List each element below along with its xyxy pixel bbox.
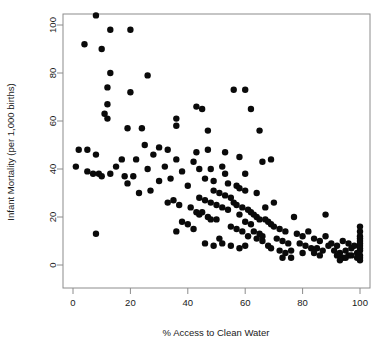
data-point xyxy=(282,228,288,234)
data-point xyxy=(274,235,280,241)
data-point xyxy=(99,173,105,179)
data-point xyxy=(185,183,191,189)
y-tick-label: 20 xyxy=(47,212,58,223)
data-point xyxy=(81,41,87,47)
data-point xyxy=(328,240,334,246)
data-point xyxy=(104,84,110,90)
data-point xyxy=(279,255,285,261)
data-point xyxy=(73,163,79,169)
data-point xyxy=(208,199,214,205)
data-point xyxy=(253,235,259,241)
data-point xyxy=(236,245,242,251)
data-point xyxy=(351,243,357,249)
data-point xyxy=(165,147,171,153)
y-tick-label: 80 xyxy=(47,68,58,79)
data-point xyxy=(268,156,274,162)
data-point xyxy=(173,156,179,162)
data-point xyxy=(248,106,254,112)
data-point xyxy=(248,221,254,227)
data-point xyxy=(93,231,99,237)
data-point xyxy=(222,171,228,177)
data-point xyxy=(348,252,354,258)
data-point xyxy=(279,238,285,244)
data-point xyxy=(187,204,193,210)
data-point xyxy=(124,180,130,186)
data-point xyxy=(245,233,251,239)
y-tick-label: 100 xyxy=(47,17,58,33)
data-point xyxy=(242,171,248,177)
data-point xyxy=(228,223,234,229)
data-point xyxy=(276,247,282,253)
data-point xyxy=(219,163,225,169)
data-point xyxy=(299,233,305,239)
data-point xyxy=(233,202,239,208)
data-point xyxy=(205,127,211,133)
data-point xyxy=(337,257,343,263)
data-point xyxy=(219,204,225,210)
data-point xyxy=(210,243,216,249)
data-point xyxy=(202,197,208,203)
data-point xyxy=(208,166,214,172)
data-point xyxy=(311,250,317,256)
y-axis-title: Infant Mortality (per 1,000 births) xyxy=(5,83,16,220)
data-point xyxy=(144,166,150,172)
data-point xyxy=(236,211,242,217)
data-point xyxy=(233,226,239,232)
y-tick-label: 60 xyxy=(47,116,58,127)
x-tick-label: 40 xyxy=(183,297,194,308)
data-point xyxy=(193,103,199,109)
data-point xyxy=(239,228,245,234)
x-axis-title: % Access to Clean Water xyxy=(163,327,270,338)
data-point xyxy=(271,223,277,229)
data-point xyxy=(225,180,231,186)
data-point xyxy=(236,185,242,191)
data-point xyxy=(222,192,228,198)
data-point xyxy=(231,87,237,93)
data-point xyxy=(190,226,196,232)
data-point xyxy=(173,228,179,234)
data-point xyxy=(139,125,145,131)
data-point xyxy=(167,175,173,181)
data-point xyxy=(288,255,294,261)
data-point xyxy=(242,243,248,249)
data-point xyxy=(317,252,323,258)
data-point xyxy=(107,171,113,177)
data-point xyxy=(199,209,205,215)
data-point xyxy=(185,221,191,227)
data-point xyxy=(208,216,214,222)
data-point xyxy=(288,247,294,253)
data-point xyxy=(228,243,234,249)
data-point xyxy=(317,238,323,244)
data-point xyxy=(165,199,171,205)
data-point xyxy=(276,226,282,232)
data-point xyxy=(147,187,153,193)
data-point xyxy=(93,151,99,157)
data-point xyxy=(291,214,297,220)
data-point xyxy=(119,156,125,162)
data-point xyxy=(268,245,274,251)
data-point xyxy=(202,240,208,246)
y-tick-label: 0 xyxy=(47,262,58,267)
data-point xyxy=(299,250,305,256)
data-point xyxy=(90,171,96,177)
data-point xyxy=(242,87,248,93)
data-point xyxy=(104,115,110,121)
data-point xyxy=(113,163,119,169)
data-point xyxy=(190,159,196,165)
data-point xyxy=(136,190,142,196)
data-point xyxy=(322,233,328,239)
data-point xyxy=(357,223,363,229)
data-point xyxy=(354,255,360,261)
data-point xyxy=(242,187,248,193)
chart-canvas: 020406080100 020406080100 % Access to Cl… xyxy=(0,0,381,347)
data-point xyxy=(302,243,308,249)
data-point xyxy=(222,149,228,155)
data-point xyxy=(311,235,317,241)
data-point xyxy=(144,72,150,78)
data-point xyxy=(124,125,130,131)
data-point xyxy=(133,156,139,162)
data-point xyxy=(193,149,199,155)
data-point xyxy=(216,190,222,196)
x-tick-label: 80 xyxy=(297,297,308,308)
data-point xyxy=(259,238,265,244)
